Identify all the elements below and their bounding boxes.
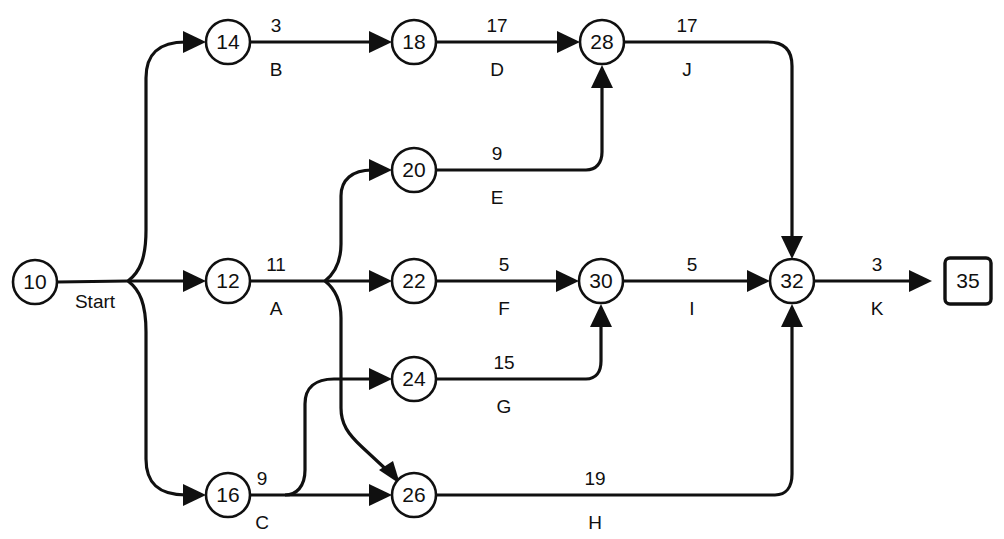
node-26[interactable]: 26 xyxy=(392,473,436,517)
arrowhead-F xyxy=(556,270,579,292)
node-20[interactable]: 20 xyxy=(392,148,436,192)
node-16[interactable]: 16 xyxy=(206,473,250,517)
node-14-label: 14 xyxy=(216,30,240,53)
node-35[interactable]: 35 xyxy=(945,258,991,304)
edge-label-H-duration: 19 xyxy=(584,468,605,489)
arrowhead-G xyxy=(590,304,612,327)
edge-label-C-activity: C xyxy=(255,512,269,533)
edge-label-F-duration: 5 xyxy=(499,254,510,275)
node-30-label: 30 xyxy=(589,269,612,292)
edge-label-K-duration: 3 xyxy=(872,254,883,275)
edge-label-A-duration: 11 xyxy=(266,254,286,275)
node-28[interactable]: 28 xyxy=(580,20,624,64)
node-16-label: 16 xyxy=(216,483,239,506)
node-12-label: 12 xyxy=(216,269,239,292)
edge-label-F-activity: F xyxy=(498,298,510,319)
edge-label-E-activity: E xyxy=(491,187,504,208)
node-12[interactable]: 12 xyxy=(206,259,250,303)
node-32[interactable]: 32 xyxy=(770,259,814,303)
node-24-label: 24 xyxy=(402,367,426,390)
node-14[interactable]: 14 xyxy=(206,20,250,64)
arrowhead-C-to-24 xyxy=(369,368,392,390)
edge-label-K-activity: K xyxy=(871,298,884,319)
network-diagram-canvas: 10 12 14 16 18 20 xyxy=(0,0,1004,539)
arrowhead-E xyxy=(591,65,613,88)
edge-start-to-14 xyxy=(128,42,186,281)
edge-label-J-activity: J xyxy=(682,59,692,80)
edge-label-D-activity: D xyxy=(490,59,504,80)
arrowhead-A-to-20 xyxy=(369,159,392,181)
arrowhead-start-to-16 xyxy=(183,484,206,506)
node-26-label: 26 xyxy=(402,483,425,506)
edge-start-stem xyxy=(57,281,128,282)
node-24[interactable]: 24 xyxy=(392,357,436,401)
arrowhead-I xyxy=(747,270,770,292)
edge-label-G-duration: 15 xyxy=(493,352,514,373)
edge-label-B-duration: 3 xyxy=(271,15,282,36)
node-18[interactable]: 18 xyxy=(392,20,436,64)
arrowhead-start-to-12 xyxy=(183,270,206,292)
arrowhead-B xyxy=(369,31,392,53)
arrowhead-K xyxy=(909,270,932,292)
edge-H-26-to-32 xyxy=(436,327,792,495)
arrowhead-H xyxy=(781,304,803,327)
node-22-label: 22 xyxy=(402,269,425,292)
edge-G-24-to-30 xyxy=(436,327,601,379)
node-10[interactable]: 10 xyxy=(13,260,57,304)
arrowhead-C-to-26 xyxy=(369,484,392,506)
arrowhead-start-to-14 xyxy=(183,31,206,53)
edge-label-H-activity: H xyxy=(588,512,602,533)
node-18-label: 18 xyxy=(402,30,425,53)
arrowhead-J xyxy=(781,236,803,259)
edge-label-D-duration: 17 xyxy=(486,15,507,36)
edge-J-28-to-32 xyxy=(624,42,792,236)
edge-label-A-activity: A xyxy=(270,298,283,319)
node-28-label: 28 xyxy=(590,30,613,53)
edge-label-G-activity: G xyxy=(497,396,512,417)
edge-C-to-24 xyxy=(285,379,372,495)
edge-label-I-activity: I xyxy=(689,298,694,319)
edge-label-I-duration: 5 xyxy=(687,254,698,275)
edge-label-C-duration: 9 xyxy=(257,468,268,489)
node-30[interactable]: 30 xyxy=(579,259,623,303)
arrowhead-A-to-22 xyxy=(369,270,392,292)
node-22[interactable]: 22 xyxy=(392,259,436,303)
node-32-label: 32 xyxy=(780,269,803,292)
edge-A-to-20 xyxy=(325,170,372,281)
node-10-label: 10 xyxy=(23,270,46,293)
edge-labels-layer: Start 3 B 17 D 17 J 9 E 11 A 5 F 5 I 3 K xyxy=(75,15,884,533)
network-diagram-svg: 10 12 14 16 18 20 xyxy=(0,0,1004,539)
edge-E-20-to-28 xyxy=(436,88,602,170)
node-35-label: 35 xyxy=(956,269,979,292)
edge-label-B-activity: B xyxy=(270,59,283,80)
edge-label-E-duration: 9 xyxy=(492,143,503,164)
edge-label-start-activity: Start xyxy=(75,291,116,312)
node-20-label: 20 xyxy=(402,158,425,181)
edge-start-to-16 xyxy=(128,281,186,495)
arrowhead-D xyxy=(557,31,580,53)
edge-label-J-duration: 17 xyxy=(676,15,697,36)
